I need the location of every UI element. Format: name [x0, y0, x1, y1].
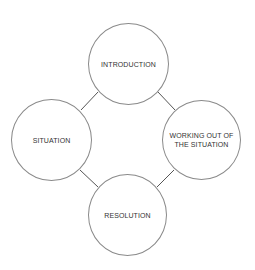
node-situation: SITUATION: [11, 99, 92, 181]
edge-working-resolution: [157, 170, 174, 187]
node-label: RESOLUTION: [100, 211, 155, 220]
node-resolution: RESOLUTION: [88, 174, 167, 256]
node-label: WORKING OUT OF THE SITUATION: [166, 131, 238, 149]
node-label: SITUATION: [29, 136, 75, 145]
node-introduction: INTRODUCTION: [88, 23, 169, 105]
edge-situation-resolution: [80, 170, 98, 187]
node-label: INTRODUCTION: [97, 60, 160, 69]
edge-intro-working: [158, 92, 175, 110]
edge-intro-situation: [81, 92, 98, 110]
node-working-out: WORKING OUT OF THE SITUATION: [162, 100, 241, 180]
